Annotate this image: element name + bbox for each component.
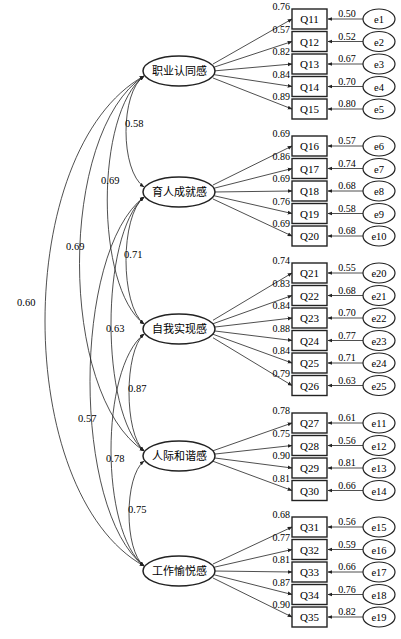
error-value: 0.66 [338, 480, 356, 491]
loading-value: 0.68 [273, 509, 291, 520]
loading-path [213, 191, 292, 192]
factor-group: 0.78Q270.61e110.75Q280.56e120.90Q290.81e… [143, 405, 395, 501]
correlation-value: 0.57 [78, 413, 96, 424]
error-value: 0.52 [338, 31, 356, 42]
correlation-value: 0.69 [101, 175, 119, 186]
indicator-label: Q25 [300, 357, 319, 369]
indicator-label: Q30 [300, 485, 319, 497]
error-value: 0.70 [338, 307, 356, 318]
indicator-label: Q15 [300, 103, 319, 115]
correlation-arc [45, 76, 144, 566]
indicator-label: Q33 [300, 566, 319, 578]
error-value: 0.70 [338, 76, 356, 87]
error-label: e18 [371, 590, 386, 601]
loading-value: 0.79 [273, 368, 291, 379]
indicator-label: Q32 [300, 544, 319, 556]
sem-path-diagram: 0.580.690.690.600.710.630.570.870.780.75… [0, 0, 401, 639]
indicator-label: Q22 [300, 290, 319, 302]
factor-group: 0.68Q310.56e150.77Q320.59e160.81Q330.66e… [143, 509, 395, 627]
error-label: e21 [371, 291, 386, 302]
error-value: 0.71 [338, 352, 356, 363]
indicator-label: Q13 [300, 58, 319, 70]
error-label: e20 [371, 268, 386, 279]
indicator-label: Q23 [300, 312, 319, 324]
error-label: e11 [372, 418, 387, 429]
factor-groups: 0.76Q110.50e10.57Q120.52e20.82Q130.67e30… [143, 1, 395, 627]
error-value: 0.56 [338, 516, 356, 527]
loading-value: 0.69 [273, 128, 291, 139]
indicator-label: Q21 [300, 267, 319, 279]
correlation-arcs: 0.580.690.690.600.710.630.570.870.780.75 [17, 76, 146, 566]
error-value: 0.56 [338, 435, 356, 446]
loading-value: 0.81 [273, 473, 291, 484]
loading-value: 0.88 [273, 323, 291, 334]
loading-value: 0.89 [273, 91, 291, 102]
error-label: e7 [374, 164, 384, 175]
correlation-value: 0.87 [128, 383, 146, 394]
indicator-label: Q35 [300, 611, 319, 623]
error-value: 0.55 [338, 262, 356, 273]
loading-value: 0.76 [273, 1, 291, 12]
error-label: e19 [371, 612, 386, 623]
factor-group: 0.69Q160.57e60.86Q170.74e70.69Q180.68e80… [143, 128, 395, 246]
error-label: e23 [371, 336, 386, 347]
error-value: 0.59 [338, 539, 356, 550]
error-label: e16 [371, 545, 386, 556]
loading-value: 0.76 [273, 196, 291, 207]
loading-value: 0.74 [273, 255, 291, 266]
indicator-label: Q12 [300, 36, 319, 48]
error-value: 0.67 [338, 53, 356, 64]
latent-factor-label: 工作愉悦感 [152, 564, 207, 578]
loading-value: 0.77 [273, 532, 291, 543]
indicator-label: Q29 [300, 462, 319, 474]
latent-factor-label: 职业认同感 [152, 65, 207, 78]
error-label: e12 [371, 441, 386, 452]
error-label: e24 [371, 358, 387, 369]
error-value: 0.63 [338, 375, 356, 386]
indicator-label: Q27 [300, 417, 319, 429]
error-value: 0.74 [338, 158, 356, 169]
error-value: 0.66 [338, 561, 356, 572]
latent-factor-label: 育人成就感 [152, 185, 207, 199]
loading-value: 0.57 [273, 24, 291, 35]
loading-value: 0.78 [273, 405, 291, 416]
loading-value: 0.84 [273, 300, 291, 311]
error-value: 0.68 [338, 285, 356, 296]
indicator-label: Q19 [300, 208, 319, 220]
indicator-label: Q17 [300, 163, 319, 175]
loading-path [213, 571, 292, 572]
error-label: e17 [371, 567, 386, 578]
loading-value: 0.69 [273, 173, 291, 184]
error-label: e8 [374, 186, 384, 197]
indicator-label: Q16 [300, 140, 319, 152]
error-label: e15 [371, 522, 386, 533]
factor-group: 0.74Q210.55e200.83Q220.68e210.84Q230.70e… [143, 255, 395, 396]
indicator-label: Q11 [300, 13, 319, 25]
error-label: e4 [374, 82, 385, 93]
error-value: 0.61 [338, 412, 356, 423]
loading-value: 0.90 [273, 599, 291, 610]
loading-value: 0.86 [273, 151, 291, 162]
correlation-value: 0.69 [66, 241, 84, 252]
error-label: e9 [374, 209, 384, 220]
loading-value: 0.69 [273, 218, 291, 229]
indicator-label: Q34 [300, 589, 319, 601]
error-value: 0.81 [338, 457, 356, 468]
correlation-value: 0.75 [128, 504, 146, 515]
error-label: e6 [374, 141, 384, 152]
correlation-value: 0.60 [17, 297, 35, 308]
correlation-value: 0.71 [124, 249, 142, 260]
latent-factor-label: 自我实现感 [152, 322, 207, 336]
indicator-label: Q18 [300, 185, 319, 197]
error-label: e3 [374, 59, 384, 70]
loading-value: 0.82 [273, 46, 291, 57]
error-label: e2 [374, 37, 384, 48]
loading-value: 0.75 [273, 428, 291, 439]
error-value: 0.77 [338, 330, 356, 341]
indicator-label: Q28 [300, 440, 319, 452]
loading-value: 0.87 [273, 577, 291, 588]
error-label: e25 [371, 381, 386, 392]
loading-value: 0.90 [273, 450, 291, 461]
error-value: 0.68 [338, 180, 356, 191]
error-value: 0.68 [338, 225, 356, 236]
